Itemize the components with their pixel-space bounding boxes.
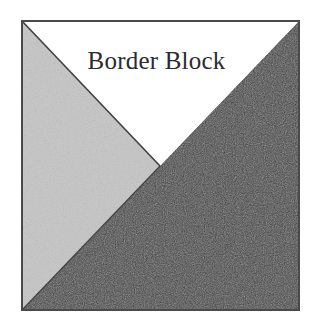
figure-root: Border Block xyxy=(0,0,313,331)
block-caption-label: Border Block xyxy=(0,46,313,75)
